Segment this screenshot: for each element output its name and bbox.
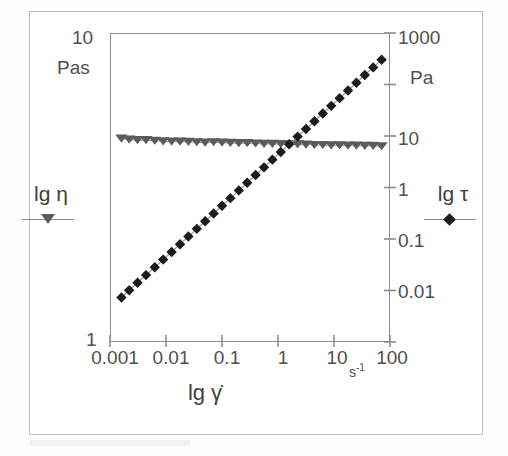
right-axis-unit-label: Pa [410, 68, 433, 87]
x-axis-tick-label-1: 1 [278, 348, 289, 367]
scan-artifact [30, 440, 190, 446]
axis-ticks-layer [110, 33, 396, 347]
right-axis-tick-label-0.01: 0.01 [398, 282, 435, 301]
right-axis-tick-label-1: 1 [398, 180, 409, 199]
data-series-layer [115, 54, 388, 302]
x-axis-unit-base: s [349, 364, 356, 380]
legend-lg-eta: lg η [22, 183, 80, 226]
x-axis-tick-label-10: 10 [326, 348, 347, 367]
plot-canvas [110, 33, 390, 342]
right-axis-tick-label-1000: 1000 [398, 28, 440, 47]
x-axis-tick-label-0.001: 0.001 [91, 348, 139, 367]
diamond-marker [443, 214, 454, 224]
plot-area [110, 33, 390, 342]
legend-lg-tau-sample [424, 214, 482, 226]
legend-lg-eta-label: lg η [22, 183, 80, 204]
right-axis-tick-label-10: 10 [398, 129, 419, 148]
x-axis-title: lg γ̇ [188, 380, 222, 406]
right-axis-tick-label-0.1: 0.1 [398, 231, 424, 250]
x-axis-tick-label-100: 100 [376, 348, 408, 367]
x-axis-unit-exponent: -1 [356, 362, 365, 373]
legend-lg-eta-sample [22, 214, 80, 226]
legend-lg-tau-label: lg τ [424, 183, 482, 204]
triangle-down-marker [41, 214, 55, 224]
x-axis-unit-label: s-1 [349, 362, 365, 380]
figure-root: 10 Pas 1 1000 Pa 10 1 0.1 0.01 0.001 0.0… [0, 0, 508, 456]
x-axis-tick-label-0.1: 0.1 [214, 348, 240, 367]
x-axis-tick-label-0.01: 0.01 [153, 348, 190, 367]
legend-lg-tau: lg τ [424, 183, 482, 226]
left-axis-max-label: 10 [72, 28, 93, 47]
left-axis-unit-label: Pas [57, 58, 90, 77]
